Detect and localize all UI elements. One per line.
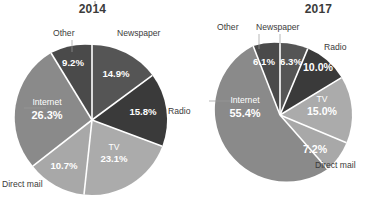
pie-label-radio: Radio: [168, 106, 191, 116]
pie-value-radio: 10.0%: [303, 61, 334, 73]
pie-label-internet: Internet: [230, 95, 260, 105]
pie-svg-2017: 6.3% 10.0% 15.0% 7.2% 55.4% 6.1% Newspap…: [195, 0, 390, 206]
pie-value-newspaper: 6.3%: [280, 56, 302, 67]
pie-canvas-2014: 14.9% 15.8% 23.1% 10.7% 26.3% 9.2% Newsp…: [0, 0, 195, 206]
pie-canvas-2017: 6.3% 10.0% 15.0% 7.2% 55.4% 6.1% Newspap…: [195, 0, 390, 206]
pie-value-direct-mail: 10.7%: [50, 160, 78, 171]
pie-label-internet: Internet: [32, 97, 62, 107]
pie-value-newspaper: 14.9%: [102, 68, 130, 79]
pie-value-internet: 26.3%: [31, 109, 62, 121]
pie-label-other: Other: [217, 22, 239, 32]
pie-svg-2014: 14.9% 15.8% 23.1% 10.7% 26.3% 9.2% Newsp…: [0, 0, 195, 206]
pie-label-radio: Radio: [324, 42, 347, 52]
pie-value-internet: 55.4%: [229, 107, 260, 119]
pie-label-tv: TV: [109, 142, 120, 152]
pie-label-direct-mail: Direct mail: [2, 179, 43, 189]
pie-chart-2014: 2014: [0, 0, 195, 206]
pie-label-newspaper: Newspaper: [256, 22, 300, 32]
pie-value-other: 6.1%: [253, 56, 275, 67]
pie-value-tv: 15.0%: [307, 105, 338, 117]
pie-label-direct-mail: Direct mail: [315, 160, 356, 170]
pie-label-other: Other: [53, 28, 75, 38]
pie-value-other: 9.2%: [62, 57, 84, 68]
pie-chart-pair: 2014: [0, 0, 390, 206]
pie-label-newspaper: Newspaper: [117, 28, 161, 38]
pie-chart-2017: 2017: [195, 0, 390, 206]
pie-value-tv: 23.1%: [100, 153, 128, 164]
pie-label-tv: TV: [317, 94, 328, 104]
pie-value-direct-mail: 7.2%: [303, 143, 328, 155]
pie-value-radio: 15.8%: [129, 106, 157, 117]
